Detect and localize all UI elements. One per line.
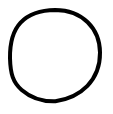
image-canvas: circle — [0, 0, 113, 114]
circle-figure — [0, 0, 113, 114]
background-rect — [0, 0, 113, 114]
